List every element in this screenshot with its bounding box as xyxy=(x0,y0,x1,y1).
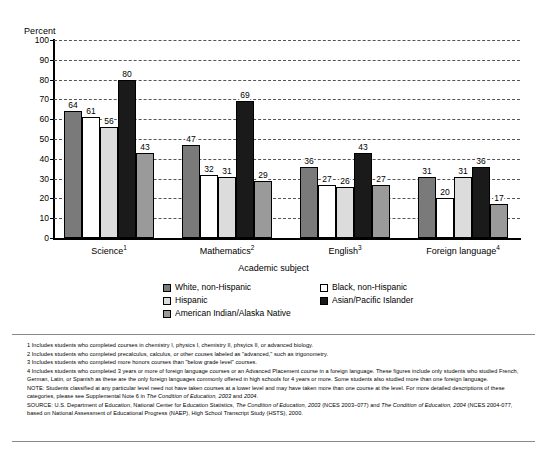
bar-value-label: 26 xyxy=(339,176,350,186)
category-footnote-marker: 1 xyxy=(123,244,127,251)
y-axis-tick-mark xyxy=(50,60,54,61)
divider-above-notes xyxy=(12,334,535,335)
plot-area: 0102030405060708090100 64615680434732316… xyxy=(54,40,520,238)
bar-value-label: 29 xyxy=(257,170,268,180)
category-footnote-marker: 3 xyxy=(358,244,362,251)
legend-item: Asian/Pacific Islander xyxy=(320,294,413,307)
legend-item: Hispanic xyxy=(163,294,320,307)
note-tail: . xyxy=(257,393,259,399)
bar: 17 xyxy=(490,204,508,238)
note-mid-1: and xyxy=(231,393,244,399)
y-axis-tick-mark xyxy=(50,238,54,239)
bar: 31 xyxy=(218,177,236,238)
bar-value-label: 20 xyxy=(439,187,450,197)
y-axis-tick-mark xyxy=(50,40,54,41)
bar: 69 xyxy=(236,101,254,238)
bar: 61 xyxy=(82,117,100,238)
bar: 27 xyxy=(318,185,336,238)
bar-value-label: 43 xyxy=(139,142,150,152)
y-axis-tick-mark xyxy=(50,99,54,100)
bar-value-label: 27 xyxy=(321,174,332,184)
bar: 56 xyxy=(100,127,118,238)
x-axis-category-label: Foreign language4 xyxy=(426,244,500,256)
bar: 26 xyxy=(336,187,354,238)
bar: 36 xyxy=(300,167,318,238)
legend-label: American Indian/Alaska Native xyxy=(175,307,291,320)
y-axis-tick-mark xyxy=(50,198,54,199)
legend-swatch xyxy=(163,297,171,305)
bar: 31 xyxy=(418,177,436,238)
y-axis-tick-mark xyxy=(50,80,54,81)
footnote-3: 3 Includes students who completed more h… xyxy=(27,358,524,367)
bar: 43 xyxy=(136,153,154,238)
y-axis-tick-label: 100 xyxy=(35,35,49,45)
source-mid-1: (NCES 2003–077) and xyxy=(321,402,382,408)
bar-value-label: 80 xyxy=(121,69,132,79)
bar-value-label: 31 xyxy=(457,166,468,176)
y-axis-tick-label: 0 xyxy=(44,233,49,243)
legend-label: Hispanic xyxy=(175,294,208,307)
bar: 64 xyxy=(64,111,82,238)
legend-row: American Indian/Alaska Native xyxy=(163,307,483,320)
footnote-1: 1 Includes students who completed course… xyxy=(27,341,524,350)
bar-value-label: 36 xyxy=(303,156,314,166)
x-axis-category-label: Mathematics2 xyxy=(200,244,255,256)
x-axis-category-label: Science1 xyxy=(91,244,127,256)
bar: 36 xyxy=(472,167,490,238)
legend-label: Asian/Pacific Islander xyxy=(332,294,413,307)
bar-value-label: 47 xyxy=(185,134,196,144)
legend-swatch xyxy=(320,297,328,305)
y-axis-tick-label: 50 xyxy=(40,134,49,144)
y-axis-tick-mark xyxy=(50,139,54,140)
bar-value-label: 31 xyxy=(221,166,232,176)
source-paragraph: SOURCE: U.S. Department of Education, Na… xyxy=(27,401,524,418)
x-axis-line xyxy=(53,238,521,240)
y-axis-tick-mark xyxy=(50,179,54,180)
x-axis-title: Academic subject xyxy=(0,263,547,273)
y-axis-tick-label: 20 xyxy=(40,193,49,203)
y-axis-tick-label: 60 xyxy=(40,114,49,124)
y-axis-tick-label: 70 xyxy=(40,94,49,104)
bar: 80 xyxy=(118,80,136,238)
legend-swatch xyxy=(163,284,171,292)
y-axis-tick-mark xyxy=(50,159,54,160)
bar: 27 xyxy=(372,185,390,238)
legend-item: American Indian/Alaska Native xyxy=(163,307,320,320)
source-lead: SOURCE: U.S. Department of Education, Na… xyxy=(27,402,236,408)
bar-group: 3627264327 xyxy=(300,40,390,238)
legend: White, non-HispanicBlack, non-HispanicHi… xyxy=(163,281,483,320)
legend-swatch xyxy=(163,310,171,318)
bar-value-label: 31 xyxy=(421,166,432,176)
note-paragraph: NOTE: Students classified at any particu… xyxy=(27,384,524,401)
y-axis-tick-mark xyxy=(50,119,54,120)
legend-item: White, non-Hispanic xyxy=(163,281,320,294)
legend-label: Black, non-Hispanic xyxy=(332,281,407,294)
note-italic-2: 2004 xyxy=(244,393,257,399)
y-axis-tick-label: 10 xyxy=(40,213,49,223)
bar: 47 xyxy=(182,145,200,238)
category-footnote-marker: 2 xyxy=(251,244,255,251)
bar: 43 xyxy=(354,153,372,238)
bar: 20 xyxy=(436,198,454,238)
bar-value-label: 43 xyxy=(357,142,368,152)
footnotes-block: 1 Includes students who completed course… xyxy=(27,341,524,418)
x-axis-category-label: English3 xyxy=(328,244,361,256)
legend-row: HispanicAsian/Pacific Islander xyxy=(163,294,483,307)
legend-item: Black, non-Hispanic xyxy=(320,281,407,294)
category-footnote-marker: 4 xyxy=(496,244,500,251)
bar-group: 6461568043 xyxy=(64,40,154,238)
divider-bottom xyxy=(12,441,535,442)
legend-label: White, non-Hispanic xyxy=(175,281,251,294)
legend-row: White, non-HispanicBlack, non-Hispanic xyxy=(163,281,483,294)
bar-group: 3120313617 xyxy=(418,40,508,238)
bar-value-label: 32 xyxy=(203,164,214,174)
note-lead: NOTE: Students classified at any particu… xyxy=(27,385,505,400)
y-axis-tick-label: 90 xyxy=(40,55,49,65)
chart-region: Percent 0102030405060708090100 646156804… xyxy=(0,0,547,322)
bar-value-label: 64 xyxy=(67,100,78,110)
footnote-2: 2 Includes students who completed precal… xyxy=(27,350,524,359)
bar-group: 4732316929 xyxy=(182,40,272,238)
note-italic-1: The Condition of Education, 2003 xyxy=(147,393,232,399)
y-axis-tick-label: 40 xyxy=(40,154,49,164)
bar-value-label: 17 xyxy=(493,193,504,203)
